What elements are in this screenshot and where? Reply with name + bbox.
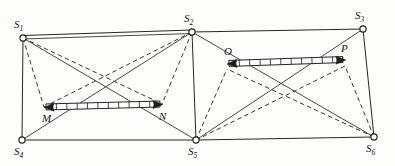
- label-s5: S5: [188, 146, 197, 160]
- label-p: P: [341, 43, 348, 54]
- edge-s3-s5: [196, 29, 363, 140]
- node-s5: [193, 137, 199, 143]
- left-panel-ties: [23, 32, 192, 107]
- edge-s5-s6: [196, 137, 374, 140]
- node-s3: [360, 26, 366, 32]
- node-s2: [189, 29, 195, 35]
- bar-op: [227, 56, 346, 68]
- figure-canvas: [0, 0, 395, 166]
- edge-s1-s4: [22, 38, 23, 140]
- tie-s2-n: [162, 32, 192, 104]
- label-s6: S6: [366, 143, 375, 157]
- label-s3: S3: [355, 10, 364, 24]
- node-markers: [19, 26, 377, 143]
- label-s1: S1: [14, 19, 23, 33]
- tie-s1-n: [23, 38, 162, 104]
- label-s2: S2: [184, 13, 193, 27]
- geometry-figure: S1 S2 S3 S4 S5 S6 M N O P: [0, 0, 395, 166]
- label-m: M: [42, 113, 51, 124]
- node-s1: [20, 35, 26, 41]
- edge-s1-s5: [23, 38, 196, 140]
- tie-s2-m: [44, 32, 192, 107]
- tie-s6-p: [345, 66, 374, 137]
- right-panel-ties: [196, 66, 374, 140]
- label-o: O: [224, 46, 232, 57]
- node-s4: [19, 137, 25, 143]
- tie-s6-o: [227, 69, 374, 137]
- node-s6: [371, 134, 377, 140]
- edge-s2-s3: [192, 29, 363, 32]
- edge-s3-s6: [363, 29, 374, 137]
- label-n: N: [159, 111, 166, 122]
- edge-s2-s5: [192, 32, 196, 140]
- label-s4: S4: [14, 146, 23, 160]
- bar-op-body: [229, 57, 343, 67]
